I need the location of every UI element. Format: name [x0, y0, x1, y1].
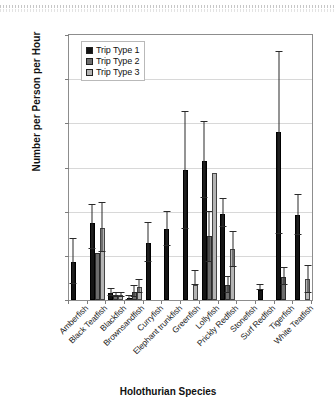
scan-artifact-strip	[0, 5, 336, 8]
legend-swatch-icon	[86, 58, 93, 65]
error-bar-cap-top	[117, 292, 124, 293]
bar-group	[144, 35, 163, 300]
bar-slot	[268, 35, 273, 300]
y-axis-title: Number per Person per Hour	[31, 2, 42, 202]
error-bar-cap-bottom	[117, 296, 124, 297]
error-bar-cap-bottom	[229, 266, 236, 267]
bar-slot	[193, 35, 198, 300]
legend-label: Trip Type 2	[96, 56, 139, 66]
x-axis-tick-mark	[143, 301, 144, 304]
error-bar-cap-top	[192, 270, 199, 271]
bar[interactable]	[193, 285, 198, 300]
error-bar	[185, 112, 186, 229]
bar-group	[181, 35, 200, 300]
x-axis-tick-mark	[161, 301, 162, 304]
bar-slot	[212, 35, 217, 300]
x-axis-tick-mark	[68, 301, 69, 304]
legend-label: Trip Type 1	[96, 45, 139, 55]
bar-slot	[230, 35, 235, 300]
error-bar	[195, 271, 196, 286]
bar-group	[256, 35, 275, 300]
error-bar-cap-bottom	[99, 251, 106, 252]
x-axis-tick-mark	[87, 301, 88, 304]
x-axis-tick-mark	[255, 301, 256, 304]
x-axis-tick-mark	[311, 301, 312, 304]
error-bar-cap-top	[304, 265, 311, 266]
error-bar	[166, 212, 167, 246]
bar-group	[200, 35, 219, 300]
bar-group	[237, 35, 256, 300]
error-bar	[204, 122, 205, 198]
bar[interactable]	[212, 173, 217, 300]
legend-label: Trip Type 3	[96, 67, 139, 77]
error-bar	[209, 212, 210, 263]
x-axis-category-labels: AmberfishBlack TeatfishBlackfishBrownsan…	[68, 303, 313, 383]
error-bar-cap-top	[229, 231, 236, 232]
bar-slot	[286, 35, 291, 300]
scan-artifact-strip-secondary	[0, 9, 336, 12]
x-axis-tick-mark	[180, 301, 181, 304]
bar-slot	[156, 35, 161, 300]
bar-slot	[305, 35, 310, 300]
legend-item: Trip Type 1	[86, 45, 139, 55]
error-bar	[73, 239, 74, 284]
plot-area: 0.000.100.200.300.400.500.60 Trip Type 1…	[68, 34, 313, 301]
x-axis-tick-mark	[199, 301, 200, 304]
legend: Trip Type 1 Trip Type 2 Trip Type 3	[81, 41, 145, 81]
error-bar-cap-top	[99, 202, 106, 203]
legend-item: Trip Type 3	[86, 67, 139, 77]
bar-group	[162, 35, 181, 300]
bar-slot	[174, 35, 179, 300]
error-bar-cap-top	[136, 279, 143, 280]
x-axis-tick-mark	[124, 301, 125, 304]
error-bar	[92, 205, 93, 249]
x-axis-tick-mark	[218, 301, 219, 304]
legend-swatch-icon	[86, 69, 93, 76]
x-axis-tick-mark	[236, 301, 237, 304]
bar-group	[219, 35, 238, 300]
error-bar-cap-bottom	[136, 292, 143, 293]
bar-group	[293, 35, 312, 300]
error-bar-cap-bottom	[304, 292, 311, 293]
x-axis-tick-mark	[105, 301, 106, 304]
error-bar	[227, 277, 228, 293]
legend-item: Trip Type 2	[86, 56, 139, 66]
bar-group	[275, 35, 294, 300]
error-bar	[278, 52, 279, 234]
error-bar	[148, 223, 149, 263]
chart-figure: Number per Person per Hour 0.000.100.200…	[0, 0, 336, 415]
error-bar	[307, 266, 308, 293]
error-bar	[232, 232, 233, 267]
legend-swatch-icon	[86, 47, 93, 54]
x-axis-tick-mark	[292, 301, 293, 304]
error-bar	[222, 199, 223, 227]
error-bar	[297, 195, 298, 234]
error-bar-cap-bottom	[192, 284, 199, 285]
bar-slot	[249, 35, 254, 300]
error-bar	[102, 203, 103, 252]
error-bar	[283, 268, 284, 285]
x-axis-tick-mark	[274, 301, 275, 304]
x-axis-title: Holothurian Species	[0, 386, 336, 397]
